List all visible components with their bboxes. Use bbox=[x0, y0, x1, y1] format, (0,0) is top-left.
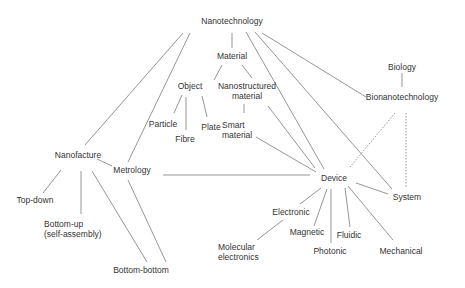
diagram-edge bbox=[257, 220, 283, 240]
diagram-edge bbox=[300, 188, 321, 204]
diagram-edge bbox=[174, 95, 182, 113]
diagram-edge bbox=[256, 137, 316, 172]
node-object: Object bbox=[178, 81, 203, 91]
diagram-edge bbox=[43, 170, 61, 193]
node-electronic: Electronic bbox=[272, 207, 309, 217]
node-nanostructured-material: Nanostructured material bbox=[218, 81, 276, 101]
diagram-edge bbox=[268, 106, 315, 168]
node-system: System bbox=[393, 192, 421, 202]
node-bottom-up: Bottom-up (self-assembly) bbox=[44, 219, 102, 239]
node-fibre: Fibre bbox=[175, 134, 194, 144]
node-biology: Biology bbox=[388, 62, 416, 72]
diagram-edge bbox=[242, 65, 252, 78]
diagram-edge bbox=[345, 188, 350, 227]
node-smart-material: Smart material bbox=[222, 120, 252, 140]
diagram-edge bbox=[356, 183, 388, 194]
diagram-edge bbox=[92, 171, 147, 262]
node-device: Device bbox=[321, 173, 347, 183]
node-plate: Plate bbox=[201, 122, 220, 132]
node-mechanical: Mechanical bbox=[380, 246, 423, 256]
diagram-edge bbox=[202, 96, 207, 117]
diagram-edge bbox=[350, 113, 395, 167]
node-material: Material bbox=[217, 51, 247, 61]
node-molecular-electronics: Molecular electronics bbox=[218, 242, 259, 262]
node-metrology: Metrology bbox=[113, 165, 150, 175]
node-nanotechnology: Nanotechnology bbox=[201, 16, 262, 26]
node-magnetic: Magnetic bbox=[290, 227, 325, 237]
node-nanofacture: Nanofacture bbox=[55, 150, 101, 160]
node-bionanotechnology: Bionanotechnology bbox=[366, 92, 438, 102]
node-photonic: Photonic bbox=[313, 246, 346, 256]
diagram-edge bbox=[214, 65, 222, 80]
node-fluidic: Fluidic bbox=[337, 230, 362, 240]
diagram-edge bbox=[314, 189, 327, 226]
node-top-down: Top-down bbox=[17, 195, 54, 205]
node-particle: Particle bbox=[149, 119, 177, 129]
diagram-edge bbox=[128, 180, 166, 262]
diagram-edge bbox=[97, 159, 112, 166]
node-bottom-bottom: Bottom-bottom bbox=[113, 265, 169, 275]
nanotechnology-diagram: Nanotechnology Material Object Nanostruc… bbox=[0, 0, 465, 288]
diagram-edge bbox=[255, 32, 392, 189]
